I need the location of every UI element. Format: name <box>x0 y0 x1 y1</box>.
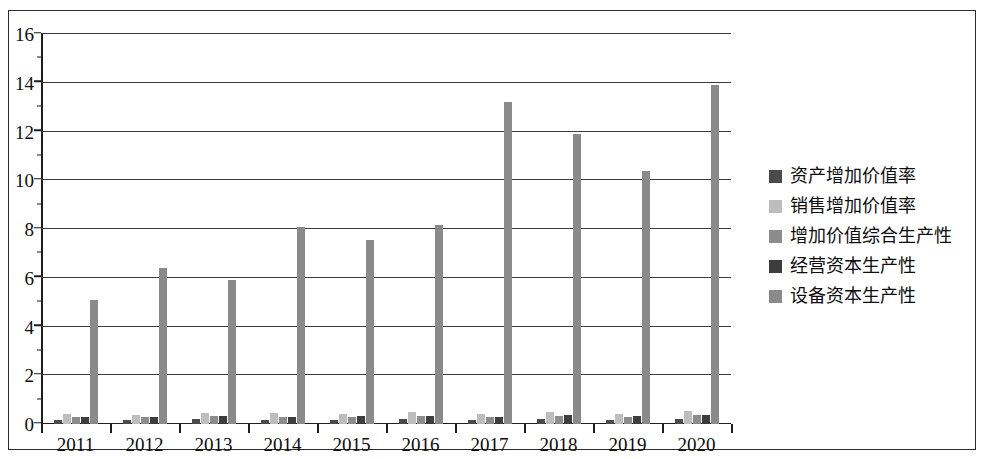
legend-item-1[interactable]: 销售增加价值率 <box>769 191 969 221</box>
bar <box>228 280 236 424</box>
bar <box>219 416 227 424</box>
bar <box>615 414 623 424</box>
y-tick-label-16: 16 <box>15 25 34 44</box>
legend-label: 增加价值综合生产性 <box>790 227 952 245</box>
bar <box>684 411 692 424</box>
bar <box>702 415 710 424</box>
bar-group <box>110 34 179 424</box>
x-axis-label-2019: 2019 <box>609 435 647 454</box>
y-tick-label-8: 8 <box>25 220 35 239</box>
legend-label: 销售增加价值率 <box>790 197 916 215</box>
legend-swatch-icon <box>769 260 782 273</box>
bar-group <box>41 34 110 424</box>
bar <box>495 417 503 424</box>
bar <box>357 416 365 424</box>
y-tick-label-14: 14 <box>15 73 34 92</box>
legend-item-2[interactable]: 增加价值综合生产性 <box>769 221 969 251</box>
x-tick <box>455 424 457 433</box>
bar <box>711 85 719 424</box>
y-tick-mark-6 <box>34 276 41 278</box>
bar <box>573 134 581 424</box>
x-axis-label-2011: 2011 <box>57 435 94 454</box>
x-tick <box>317 424 319 433</box>
bar-group <box>386 34 455 424</box>
bar <box>348 417 356 424</box>
y-tick-label-12: 12 <box>15 122 34 141</box>
x-tick <box>524 424 526 433</box>
x-axis-label-2015: 2015 <box>333 435 371 454</box>
bar <box>339 414 347 424</box>
y-tick-mark-10 <box>34 178 41 180</box>
chart-legend: 资产增加价值率销售增加价值率增加价值综合生产性经营资本生产性设备资本生产性 <box>769 161 969 311</box>
y-tick-mark-2 <box>34 373 41 375</box>
bar <box>693 415 701 424</box>
bar <box>90 300 98 424</box>
y-tick-mark-0 <box>34 422 41 424</box>
legend-swatch-icon <box>769 290 782 303</box>
x-axis-label-2016: 2016 <box>402 435 440 454</box>
bar-group <box>179 34 248 424</box>
bar <box>159 268 167 424</box>
bar-group <box>248 34 317 424</box>
bar <box>366 240 374 424</box>
x-axis-label-2012: 2012 <box>126 435 164 454</box>
bar <box>417 416 425 424</box>
bar <box>504 102 512 424</box>
bar <box>72 417 80 424</box>
x-tick <box>386 424 388 433</box>
bar <box>486 417 494 424</box>
x-axis-label-2014: 2014 <box>264 435 302 454</box>
bar <box>210 416 218 424</box>
bar <box>435 225 443 424</box>
x-axis-label-2017: 2017 <box>471 435 509 454</box>
x-axis-ticks <box>41 424 731 433</box>
bar-group <box>524 34 593 424</box>
legend-label: 经营资本生产性 <box>790 257 916 275</box>
legend-item-3[interactable]: 经营资本生产性 <box>769 251 969 281</box>
bar <box>546 412 554 424</box>
legend-label: 资产增加价值率 <box>790 167 916 185</box>
bar <box>81 417 89 424</box>
bar <box>477 414 485 424</box>
x-axis-label-2018: 2018 <box>540 435 578 454</box>
bar <box>279 417 287 424</box>
y-tick-label-0: 0 <box>25 415 35 434</box>
y-tick-label-4: 4 <box>25 317 35 336</box>
bar <box>270 413 278 424</box>
x-tick <box>110 424 112 433</box>
bars-layer <box>41 34 731 424</box>
bar <box>63 414 71 424</box>
y-tick-mark-12 <box>34 129 41 131</box>
x-axis-label-2020: 2020 <box>678 435 716 454</box>
y-tick-label-6: 6 <box>25 268 35 287</box>
legend-swatch-icon <box>769 230 782 243</box>
legend-swatch-icon <box>769 170 782 183</box>
plot-area: 0246810121416 20112012201320142015201620… <box>41 34 731 424</box>
x-axis-label-2013: 2013 <box>195 435 233 454</box>
bar <box>288 417 296 424</box>
y-tick-label-10: 10 <box>15 171 34 190</box>
x-axis-labels: 2011201220132014201520162017201820192020 <box>41 435 731 459</box>
x-tick <box>662 424 664 433</box>
legend-item-4[interactable]: 设备资本生产性 <box>769 281 969 311</box>
bar <box>201 413 209 424</box>
bar <box>132 415 140 424</box>
y-tick-mark-14 <box>34 81 41 83</box>
x-tick <box>248 424 250 433</box>
y-tick-mark-4 <box>34 324 41 326</box>
bar <box>555 416 563 424</box>
bar-group <box>455 34 524 424</box>
chart-frame: 0246810121416 20112012201320142015201620… <box>8 10 976 450</box>
bar <box>408 412 416 424</box>
bar <box>150 417 158 424</box>
x-tick <box>41 424 43 433</box>
legend-swatch-icon <box>769 200 782 213</box>
bar <box>633 416 641 424</box>
bar <box>141 417 149 424</box>
bar <box>624 417 632 424</box>
y-tick-mark-16 <box>34 32 41 34</box>
legend-item-0[interactable]: 资产增加价值率 <box>769 161 969 191</box>
bar <box>642 171 650 425</box>
x-tick <box>731 424 733 433</box>
bar <box>564 415 572 424</box>
